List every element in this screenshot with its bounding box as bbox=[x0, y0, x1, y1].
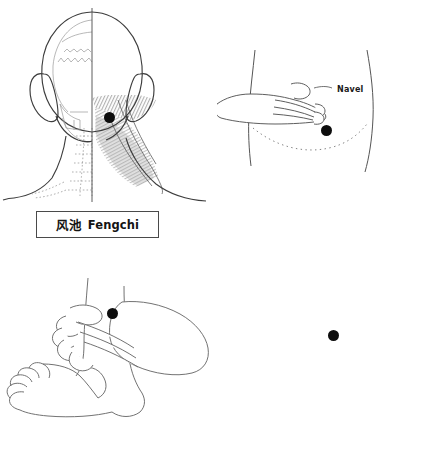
panel-fengchi: 风池 Fengchi bbox=[0, 0, 217, 240]
sanyinjiao-illustration bbox=[0, 240, 217, 435]
acupoint-figure-page: 风池 Fengchi bbox=[0, 0, 434, 461]
panel-guanyuan: Navel 关元 Guanyuan bbox=[217, 0, 434, 240]
label-cn-fengchi: 风池 bbox=[56, 215, 83, 234]
acupoint-dot-taichong bbox=[328, 330, 339, 341]
inguinal-crease bbox=[253, 124, 367, 150]
measuring-hand bbox=[52, 302, 208, 375]
guanyuan-illustration bbox=[217, 0, 434, 210]
label-pinyin-fengchi: Fengchi bbox=[88, 218, 139, 232]
acupoint-dot-guanyuan bbox=[321, 125, 332, 136]
label-box-fengchi: 风池 Fengchi bbox=[36, 211, 159, 238]
acupoint-dot-sanyinjiao bbox=[107, 308, 118, 319]
panel-taichong: 太冲 Taichong bbox=[217, 240, 434, 461]
navel-callout-label: Navel bbox=[337, 85, 363, 94]
acupoint-dot-fengchi bbox=[104, 112, 115, 123]
panel-sanyinjiao: 三阴交 Sanyinjiao bbox=[0, 240, 217, 461]
fengchi-illustration bbox=[0, 0, 217, 210]
measuring-hand bbox=[217, 83, 326, 124]
